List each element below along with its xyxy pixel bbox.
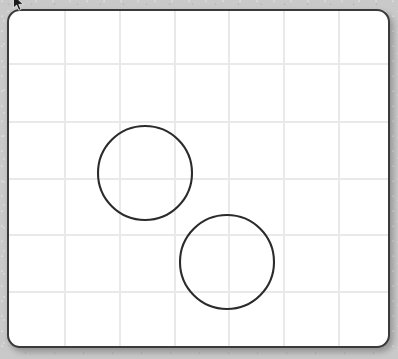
circle-lower-right[interactable] bbox=[180, 215, 274, 309]
drawn-shapes[interactable] bbox=[98, 126, 274, 309]
app-root bbox=[0, 0, 398, 359]
drawing-canvas[interactable] bbox=[7, 9, 390, 348]
shape-overlay bbox=[9, 11, 388, 346]
circle-upper-left[interactable] bbox=[98, 126, 192, 220]
